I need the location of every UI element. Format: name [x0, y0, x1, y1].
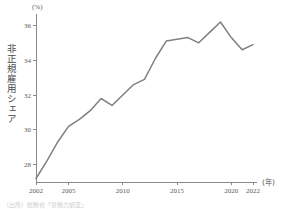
y-tick-label: 32 [24, 92, 32, 100]
chart-figure: 2830323436(%)200220052010201520202022(年)… [0, 0, 287, 209]
x-tick-label: 2020 [224, 187, 239, 195]
x-tick-label: 2010 [116, 187, 131, 195]
x-tick-label: 2005 [62, 187, 77, 195]
y-axis-title: 非正規雇用シェア [2, 44, 16, 124]
x-tick-label: 2015 [170, 187, 185, 195]
x-axis-unit-label: (年) [262, 177, 275, 187]
chart-footnote: （出所）総務省「労働力調査」 [3, 200, 87, 209]
y-tick-label: 28 [24, 161, 32, 169]
x-tick-label: 2002 [29, 187, 44, 195]
y-axis-unit-label: (%) [32, 3, 43, 11]
y-tick-label: 30 [24, 126, 32, 134]
x-tick-label: 2022 [246, 187, 261, 195]
y-tick-label: 34 [24, 57, 32, 65]
line-chart-svg: 2830323436(%)200220052010201520202022(年) [0, 0, 287, 209]
series-line-share [36, 22, 253, 179]
y-tick-label: 36 [24, 22, 32, 30]
